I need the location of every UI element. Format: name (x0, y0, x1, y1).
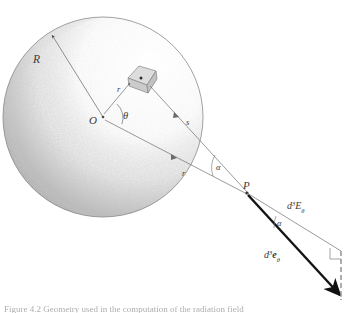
label-O: O (89, 114, 97, 126)
label-P: P (242, 179, 250, 191)
flux-label-emergent-group: d3eθ (264, 249, 281, 263)
label-R: R (32, 53, 40, 65)
label-subscript-theta-emergent: θ (277, 256, 281, 263)
flux-label-incident-group: d3Eθ (287, 200, 305, 214)
label-d3-E-theta: d3Eθ (287, 200, 305, 214)
label-alpha-outer: α (277, 218, 282, 228)
label-alpha-inner: α (216, 162, 221, 172)
label-theta: θ (123, 110, 128, 121)
figure-container: R O r θ (0, 0, 355, 313)
origin-dot (102, 116, 105, 119)
emergent-flux-vector (248, 195, 340, 295)
label-E-base: E (294, 200, 301, 211)
figure-caption: Figure 4.2 Geometry used in the computat… (4, 304, 354, 313)
volume-element-center-dot (140, 77, 143, 80)
angle-alpha-inner-arc (212, 155, 215, 176)
sphere-radiation-diagram: R O r θ (0, 0, 355, 313)
emergent-rays-group: α (247, 193, 341, 295)
reference-line-group (330, 248, 341, 300)
label-d3-e-theta: d3eθ (264, 249, 281, 263)
label-subscript-theta-incident: θ (301, 207, 305, 214)
